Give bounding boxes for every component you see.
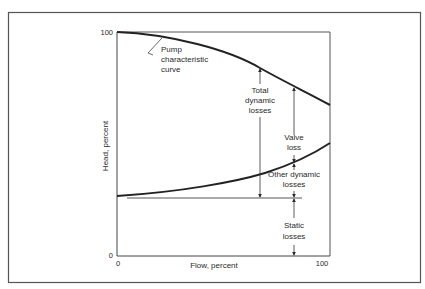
total-losses-line1: Total <box>252 86 269 95</box>
pump-label-line2: characteristic <box>161 55 208 64</box>
other-losses-line1: Other dynamic <box>268 170 320 179</box>
outer-frame <box>9 13 421 283</box>
total-losses-line2: dynamic <box>245 96 275 105</box>
x-axis-label: Flow, percent <box>190 261 238 270</box>
pump-system-diagram: 100 0 0 100 Head, percent Flow, percent … <box>0 0 425 289</box>
y-axis-label: Head, percent <box>101 120 110 171</box>
pump-label-leader <box>148 38 162 55</box>
y-tick-0: 0 <box>109 251 113 260</box>
static-losses-line1: Static <box>284 221 304 230</box>
valve-loss-line2: loss <box>287 143 301 152</box>
y-tick-100: 100 <box>100 28 113 37</box>
pump-curve <box>117 32 330 105</box>
valve-loss-line1: Valve <box>284 133 304 142</box>
pump-label-line3: curve <box>161 65 181 74</box>
x-tick-100: 100 <box>316 259 329 268</box>
total-losses-line3: losses <box>249 106 272 115</box>
static-losses-line2: losses <box>283 232 306 241</box>
x-tick-0: 0 <box>116 259 120 268</box>
other-losses-line2: losses <box>283 180 306 189</box>
pump-label-line1: Pump <box>161 45 182 54</box>
